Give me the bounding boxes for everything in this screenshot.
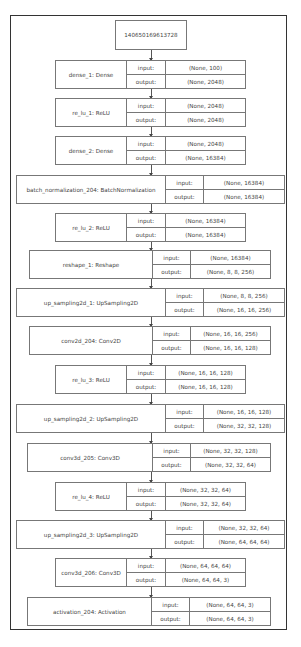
output-shape: (None, 2048) [166, 75, 245, 88]
output-shape: (None, 16384) [166, 151, 245, 164]
layer-node: batch_normalization_204: BatchNormalizat… [16, 175, 285, 204]
output-shape: (None, 16384) [204, 190, 284, 203]
layer-node: conv3d_205: Conv3Dinput:output:(None, 32… [27, 443, 271, 472]
io-labels: input:output: [166, 176, 204, 203]
output-label: output: [127, 228, 165, 241]
shape-values: (None, 32, 32, 64)(None, 64, 64, 64) [204, 521, 284, 548]
layer-name: re_lu_2: ReLU [56, 214, 127, 241]
shape-values: (None, 16384)(None, 16384) [166, 214, 245, 241]
io-labels: input:output: [152, 598, 190, 625]
layer-node: re_lu_4: ReLUinput:output:(None, 32, 32,… [55, 482, 246, 511]
io-labels: input:output: [127, 483, 166, 510]
shape-values: (None, 2048)(None, 16384) [166, 137, 245, 164]
io-labels: input:output: [166, 289, 204, 316]
layer-node: re_lu_2: ReLUinput:output:(None, 16384)(… [55, 213, 246, 242]
shape-values: (None, 100)(None, 2048) [166, 61, 245, 88]
output-shape: (None, 32, 32, 128) [204, 419, 284, 432]
output-label: output: [166, 190, 203, 203]
layer-node: re_lu_3: ReLUinput:output:(None, 16, 16,… [55, 365, 246, 394]
shape-values: (None, 64, 64, 64)(None, 64, 64, 3) [166, 559, 245, 586]
output-shape: (None, 2048) [166, 113, 245, 126]
io-labels: input:output: [166, 405, 204, 432]
layer-name: re_lu_4: ReLU [56, 483, 127, 510]
input-label: input: [166, 289, 203, 303]
io-labels: input:output: [153, 444, 191, 471]
layer-name: up_sampling2d_1: UpSampling2D [17, 289, 166, 316]
flow-arrow-icon [151, 165, 152, 175]
input-label: input: [166, 521, 203, 535]
flow-arrow-icon [151, 433, 152, 443]
layer-name: batch_normalization_204: BatchNormalizat… [17, 176, 166, 203]
io-labels: input:output: [127, 137, 166, 164]
flow-arrow-icon [151, 549, 152, 558]
layer-name: conv3d_205: Conv3D [28, 444, 153, 471]
layer-name: up_sampling2d_3: UpSampling2D [17, 521, 166, 548]
input-shape: (None, 2048) [166, 137, 245, 151]
input-label: input: [153, 251, 190, 265]
input-label: input: [127, 61, 165, 75]
flow-arrow-icon [151, 355, 152, 365]
shape-values: (None, 16, 16, 128)(None, 32, 32, 128) [204, 405, 284, 432]
flow-arrow-icon [151, 127, 152, 136]
shape-values: (None, 16384)(None, 16384) [204, 176, 284, 203]
layer-node: conv3d_206: Conv3Dinput:output:(None, 64… [55, 558, 246, 587]
layer-name: dense_2: Dense [56, 137, 127, 164]
layer-name: conv3d_206: Conv3D [56, 559, 127, 586]
flow-arrow-icon [151, 472, 152, 482]
input-label: input: [153, 327, 190, 341]
input-shape: (None, 8, 8, 256) [204, 289, 284, 303]
input-shape: (None, 32, 32, 128) [191, 444, 270, 458]
input-label: input: [127, 366, 165, 380]
input-shape: (None, 16384) [166, 214, 245, 228]
output-shape: (None, 32, 32, 64) [191, 458, 270, 471]
root-node: 140650169613728 [115, 20, 187, 50]
input-shape: (None, 2048) [166, 99, 245, 113]
output-label: output: [153, 458, 190, 471]
io-labels: input:output: [153, 251, 191, 278]
flow-arrow-icon [151, 394, 152, 404]
layer-name: activation_204: Activation [28, 598, 152, 625]
input-shape: (None, 16, 16, 128) [204, 405, 284, 419]
input-shape: (None, 64, 64, 3) [190, 598, 270, 612]
output-label: output: [127, 380, 165, 393]
io-labels: input:output: [127, 214, 166, 241]
layer-node: up_sampling2d_3: UpSampling2Dinput:outpu… [16, 520, 285, 549]
layer-name: up_sampling2d_2: UpSampling2D [17, 405, 166, 432]
shape-values: (None, 8, 8, 256)(None, 16, 16, 256) [204, 289, 284, 316]
flow-arrow-icon [151, 279, 152, 288]
layer-node: dense_2: Denseinput:output:(None, 2048)(… [55, 136, 246, 165]
output-label: output: [127, 151, 165, 164]
output-label: output: [166, 419, 203, 432]
shape-values: (None, 16, 16, 256)(None, 16, 16, 128) [191, 327, 270, 354]
shape-values: (None, 64, 64, 3)(None, 64, 64, 3) [190, 598, 270, 625]
io-labels: input:output: [127, 559, 166, 586]
layer-node: dense_1: Denseinput:output:(None, 100)(N… [55, 60, 246, 89]
layer-node: reshape_1: Reshapeinput:output:(None, 16… [29, 250, 271, 279]
input-label: input: [127, 214, 165, 228]
io-labels: input:output: [127, 366, 166, 393]
flow-arrow-icon [151, 50, 152, 60]
input-label: input: [127, 559, 165, 573]
flow-arrow-icon [151, 242, 152, 250]
shape-values: (None, 16384)(None, 8, 8, 256) [191, 251, 270, 278]
flow-arrow-icon [151, 587, 152, 597]
output-shape: (None, 16, 16, 128) [191, 341, 270, 354]
root-node-label: 140650169613728 [124, 32, 177, 38]
output-label: output: [152, 612, 189, 625]
io-labels: input:output: [127, 61, 166, 88]
output-label: output: [127, 113, 165, 126]
io-labels: input:output: [166, 521, 204, 548]
input-shape: (None, 16, 16, 128) [166, 366, 245, 380]
input-shape: (None, 16, 16, 256) [191, 327, 270, 341]
input-shape: (None, 32, 32, 64) [204, 521, 284, 535]
input-label: input: [152, 598, 189, 612]
layer-node: up_sampling2d_2: UpSampling2Dinput:outpu… [16, 404, 285, 433]
output-shape: (None, 16384) [166, 228, 245, 241]
flow-arrow-icon [151, 511, 152, 520]
output-label: output: [127, 573, 165, 586]
flow-arrow-icon [151, 317, 152, 326]
flow-arrow-icon [151, 89, 152, 98]
shape-values: (None, 2048)(None, 2048) [166, 99, 245, 126]
output-shape: (None, 8, 8, 256) [191, 265, 270, 278]
input-label: input: [127, 137, 165, 151]
